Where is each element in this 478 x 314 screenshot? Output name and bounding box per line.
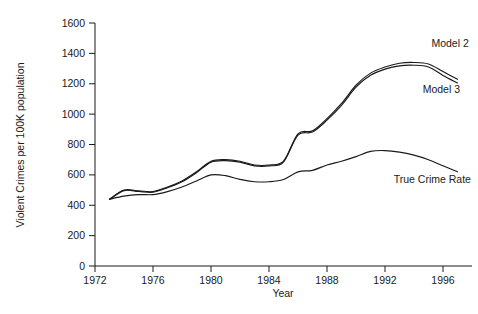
chart-figure: 02004006008001000120014001600 Violent Cr…: [0, 0, 478, 314]
x-tick-label: 1984: [257, 274, 281, 286]
x-tick-label: 1992: [373, 274, 397, 286]
y-tick-label: 1000: [62, 108, 86, 120]
y-tick-label: 1600: [62, 17, 86, 29]
x-axis-title: Year: [272, 287, 294, 299]
series-label-model-3: Model 3: [423, 83, 461, 95]
x-tick-label: 1976: [141, 274, 165, 286]
x-tick-label: 1972: [83, 274, 107, 286]
x-tick-label: 1996: [431, 274, 455, 286]
series-label-model-2: Model 2: [431, 37, 469, 49]
y-tick-label: 800: [67, 138, 85, 150]
series-label-true-crime-rate: True Crime Rate: [394, 173, 471, 185]
y-tick-label: 200: [67, 229, 85, 241]
x-tick-label: 1988: [315, 274, 339, 286]
y-tick-label: 1400: [62, 47, 86, 59]
y-tick-label: 1200: [62, 77, 86, 89]
y-tick-label: 0: [79, 260, 85, 272]
y-tick-label: 600: [67, 168, 85, 180]
violent-crime-line-chart: 02004006008001000120014001600 Violent Cr…: [0, 0, 478, 314]
y-axis-title: Violent Crimes per 100K population: [14, 62, 26, 227]
x-tick-label: 1980: [199, 274, 223, 286]
y-tick-label: 400: [67, 199, 85, 211]
